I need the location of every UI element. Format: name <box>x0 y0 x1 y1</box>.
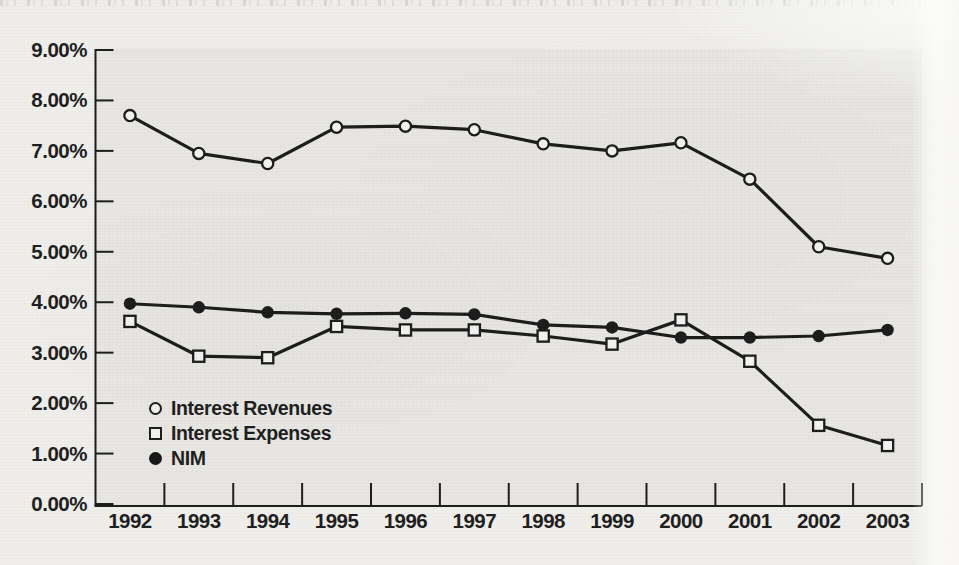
open-circle-marker-icon <box>148 402 162 415</box>
x-tick-label: 2001 <box>728 509 772 532</box>
data-point-interest-revenues <box>262 158 273 169</box>
chart-legend: Interest Revenues Interest Expenses NIM <box>148 396 332 471</box>
data-point-nim <box>881 324 893 336</box>
x-tick-label: 1992 <box>108 509 152 532</box>
y-tick-label: 2.00% <box>31 391 87 414</box>
x-tick-label: 1995 <box>315 509 359 532</box>
y-tick-label: 0.00% <box>31 492 87 515</box>
data-point-nim <box>537 319 549 331</box>
data-point-nim <box>193 301 205 313</box>
data-point-interest-revenues <box>675 137 686 148</box>
y-tick-label: 1.00% <box>31 442 87 465</box>
data-point-interest-revenues <box>606 145 617 156</box>
data-point-interest-expenses <box>606 338 617 349</box>
y-tick-label: 9.00% <box>31 38 87 61</box>
data-point-interest-revenues <box>813 241 824 252</box>
y-tick-label: 5.00% <box>31 240 87 263</box>
filled-circle-marker-icon <box>148 452 162 465</box>
data-point-interest-revenues <box>538 138 549 149</box>
x-tick-label: 1996 <box>384 509 428 532</box>
legend-label-interest-expenses: Interest Expenses <box>171 422 331 445</box>
y-tick-label: 4.00% <box>31 290 87 313</box>
data-point-interest-expenses <box>675 314 686 325</box>
data-point-nim <box>606 321 618 333</box>
data-point-interest-expenses <box>400 324 411 335</box>
data-point-interest-revenues <box>193 148 204 159</box>
x-tick-label: 2003 <box>866 509 910 532</box>
legend-item-nim: NIM <box>148 446 332 471</box>
legend-item-interest-revenues: Interest Revenues <box>148 396 332 421</box>
data-point-interest-revenues <box>744 174 755 185</box>
x-tick-label: 1997 <box>453 509 497 532</box>
data-point-nim <box>330 308 342 320</box>
data-point-nim <box>675 331 687 343</box>
data-point-nim <box>124 298 136 310</box>
y-tick-label: 8.00% <box>31 88 87 111</box>
x-tick-label: 1998 <box>521 509 565 532</box>
data-point-interest-expenses <box>469 324 480 335</box>
data-point-interest-expenses <box>193 351 204 362</box>
x-tick-label: 2002 <box>797 509 841 532</box>
data-point-interest-expenses <box>744 356 755 367</box>
legend-label-interest-revenues: Interest Revenues <box>171 397 332 420</box>
data-point-interest-expenses <box>124 316 135 327</box>
data-point-interest-expenses <box>538 330 549 341</box>
data-point-interest-revenues <box>331 122 342 133</box>
data-point-interest-expenses <box>262 352 273 363</box>
data-point-nim <box>468 308 480 320</box>
data-point-interest-revenues <box>469 124 480 135</box>
data-point-nim <box>812 330 824 342</box>
y-tick-label: 7.00% <box>31 139 87 162</box>
legend-item-interest-expenses: Interest Expenses <box>148 421 332 446</box>
data-point-nim <box>261 306 273 318</box>
legend-label-nim: NIM <box>171 447 206 470</box>
data-point-interest-revenues <box>400 121 411 132</box>
data-point-interest-revenues <box>882 253 893 264</box>
open-square-marker-icon <box>148 427 162 440</box>
data-point-interest-expenses <box>882 440 893 451</box>
y-tick-label: 6.00% <box>31 189 87 212</box>
x-tick-label: 1994 <box>246 509 291 532</box>
data-point-nim <box>399 307 411 319</box>
data-point-nim <box>744 331 756 343</box>
line-chart: 9.00%8.00%7.00%6.00%5.00%4.00%3.00%2.00%… <box>0 0 959 565</box>
x-tick-label: 1999 <box>590 509 634 532</box>
x-tick-label: 2000 <box>659 509 703 532</box>
scanned-book-page: 9.00%8.00%7.00%6.00%5.00%4.00%3.00%2.00%… <box>0 0 959 565</box>
data-point-interest-expenses <box>813 420 824 431</box>
data-point-interest-expenses <box>331 321 342 332</box>
y-tick-label: 3.00% <box>31 341 87 364</box>
scan-artifact-cutoff-text <box>0 0 959 6</box>
x-tick-label: 1993 <box>177 509 221 532</box>
data-point-interest-revenues <box>124 110 135 121</box>
